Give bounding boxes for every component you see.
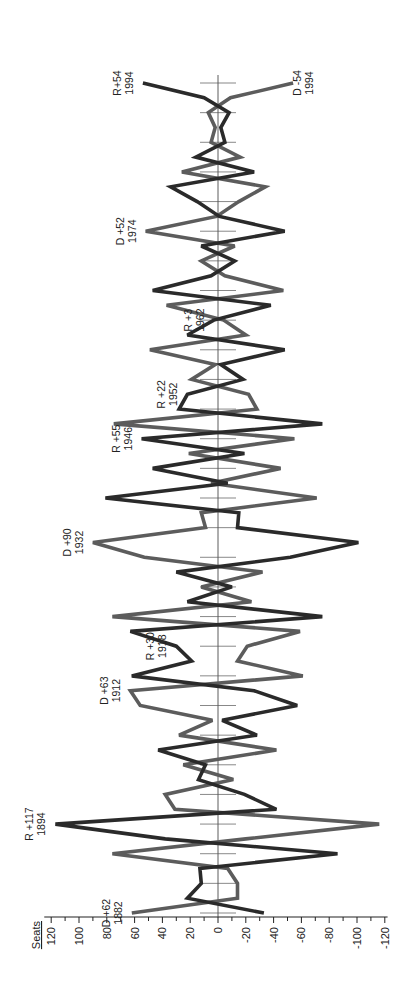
annotation-year: 1882	[112, 901, 124, 925]
axis-tick-label: 120	[45, 927, 57, 945]
annotation-label: R +31962	[182, 308, 206, 332]
annotation-label: D +521974	[114, 217, 138, 245]
axis-tick-label: 80	[101, 927, 113, 939]
annotation-label: R+541994	[111, 70, 135, 96]
annotation-value: R +117	[23, 807, 35, 841]
seats-axis: 120100806040200-20-40-60-80-100-120Seats	[30, 917, 391, 949]
annotation-year: 1932	[73, 531, 85, 555]
annotation-year: 1952	[167, 382, 179, 406]
annotation-value: D +63	[98, 676, 110, 704]
annotation-label: D +621882	[100, 899, 124, 927]
axis-tick-label: 60	[129, 927, 141, 939]
annotation-label: D +631912	[98, 676, 122, 704]
annotation-value: R+54	[111, 70, 123, 96]
annotation-label: R +1171894	[23, 807, 47, 841]
axis-tick-label: -40	[268, 927, 280, 943]
axis-tick-label: 0	[212, 927, 224, 933]
annotation-label: D -541994	[291, 70, 315, 96]
axis-title: Seats	[30, 921, 42, 950]
annotation-value: R +55	[110, 424, 122, 452]
annotation-value: R +22	[155, 380, 167, 408]
annotation-value: D +62	[100, 899, 112, 927]
annotation-year: 1918	[156, 634, 168, 658]
axis-tick-label: -100	[351, 927, 363, 949]
annotation-value: R +3	[182, 309, 194, 332]
axis-tick-label: -120	[379, 927, 391, 949]
annotation-year: 1994	[123, 71, 135, 95]
axis-tick-label: -20	[240, 927, 252, 943]
axis-tick-label: 100	[73, 927, 85, 945]
annotation-year: 1912	[110, 679, 122, 703]
annotation-year: 1994	[303, 71, 315, 95]
annotation-value: D +90	[61, 528, 73, 556]
annotation-label: R +221952	[155, 380, 179, 408]
annotation-label: D +901932	[61, 528, 85, 556]
axis-tick-label: 40	[156, 927, 168, 939]
democrat-series-line	[93, 83, 379, 913]
annotation-year: 1974	[126, 219, 138, 243]
axis-tick-label: -60	[295, 927, 307, 943]
annotation-year: 1946	[122, 427, 134, 451]
annotation-value: D -54	[291, 70, 303, 96]
annotation-year: 1894	[35, 812, 47, 836]
axis-tick-label: 20	[184, 927, 196, 939]
seat-change-chart: 120100806040200-20-40-60-80-100-120Seats…	[0, 0, 418, 983]
annotation-value: R +30	[144, 632, 156, 660]
annotation-year: 1962	[194, 308, 206, 332]
annotation-value: D +52	[114, 217, 126, 245]
axis-tick-label: -80	[323, 927, 335, 943]
annotation-label: R +551946	[110, 424, 134, 452]
annotation-label: R +301918	[144, 632, 168, 660]
